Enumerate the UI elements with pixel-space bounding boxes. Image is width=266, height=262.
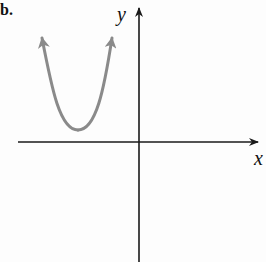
graph-svg: [0, 0, 266, 262]
x-axis-label: x: [254, 148, 263, 168]
parabola-right-branch: [78, 38, 112, 130]
graph-figure: b. y x: [0, 0, 266, 262]
parabola-left-branch: [42, 38, 78, 130]
figure-label: b.: [0, 2, 13, 18]
y-axis-label: y: [117, 4, 126, 24]
